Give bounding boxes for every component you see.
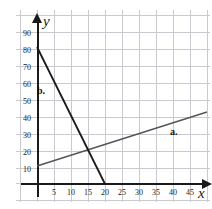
gridline-horizontal bbox=[16, 32, 210, 33]
gridline-horizontal bbox=[16, 100, 210, 101]
gridline-horizontal bbox=[16, 117, 210, 118]
gridline-vertical bbox=[139, 10, 140, 202]
x-tick-label: 15 bbox=[80, 189, 96, 197]
y-tick-label: 70 bbox=[17, 64, 31, 72]
x-tick-label: 10 bbox=[63, 189, 79, 197]
y-tick-label: 30 bbox=[17, 132, 31, 140]
gridline-vertical bbox=[207, 10, 208, 202]
gridline-horizontal bbox=[16, 49, 210, 50]
plot-area bbox=[16, 10, 210, 202]
gridline-horizontal bbox=[16, 134, 210, 135]
y-axis-label: y bbox=[43, 14, 50, 29]
x-tick-label: 5 bbox=[46, 189, 62, 197]
y-tick-label: 20 bbox=[17, 149, 31, 157]
y-tick-label: 60 bbox=[17, 81, 31, 89]
gridline-vertical bbox=[71, 10, 72, 202]
gridline-vertical bbox=[190, 10, 191, 202]
gridline-vertical bbox=[122, 10, 123, 202]
y-tick-label: 40 bbox=[17, 115, 31, 123]
y-tick-label: 10 bbox=[17, 166, 31, 174]
gridline-vertical bbox=[54, 10, 55, 202]
gridline-horizontal bbox=[16, 83, 210, 84]
gridline-horizontal bbox=[16, 151, 210, 152]
x-tick-label: 35 bbox=[148, 189, 164, 197]
gridline-vertical bbox=[156, 10, 157, 202]
gridline-vertical bbox=[88, 10, 89, 202]
series-label-b: b. bbox=[37, 86, 45, 96]
gridline-horizontal bbox=[16, 200, 210, 201]
x-tick-label: 20 bbox=[97, 189, 113, 197]
x-axis-label: x bbox=[198, 186, 205, 201]
gridline-horizontal bbox=[16, 168, 210, 169]
y-axis-arrow-icon bbox=[32, 13, 42, 23]
y-tick-label: 90 bbox=[17, 30, 31, 38]
gridline-horizontal bbox=[16, 66, 210, 67]
y-axis-line bbox=[37, 21, 39, 197]
series-label-a: a. bbox=[170, 127, 178, 137]
gridline-vertical bbox=[105, 10, 106, 202]
x-tick-label: 30 bbox=[131, 189, 147, 197]
chart-canvas: 90 80 70 60 50 40 30 20 10 5 10 15 20 25… bbox=[0, 0, 212, 209]
x-tick-label: 25 bbox=[114, 189, 130, 197]
x-axis-line bbox=[21, 183, 206, 185]
y-tick-label: 80 bbox=[17, 47, 31, 55]
y-tick-label: 50 bbox=[17, 98, 31, 106]
gridline-vertical bbox=[173, 10, 174, 202]
x-tick-label: 45 bbox=[182, 189, 198, 197]
x-tick-label: 40 bbox=[165, 189, 181, 197]
